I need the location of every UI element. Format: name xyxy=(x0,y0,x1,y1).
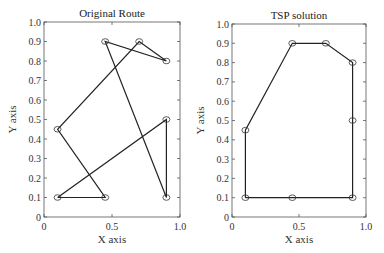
x-axis-label: X axis xyxy=(285,233,313,245)
y-tick-label: 0.7 xyxy=(217,76,230,87)
y-axis-label: Y axis xyxy=(6,105,18,133)
y-tick-label: 0.1 xyxy=(29,192,42,203)
tsp-solution-plot: TSP solution00.10.20.30.40.50.60.70.80.9… xyxy=(194,9,372,245)
y-tick-label: 0.7 xyxy=(29,75,42,86)
axes-frame xyxy=(44,22,180,217)
original-route-plot: Original Route00.10.20.30.40.50.60.70.80… xyxy=(6,7,186,245)
y-tick-label: 0.9 xyxy=(29,36,42,47)
y-tick-label: 0 xyxy=(224,212,229,223)
y-tick-label: 0.4 xyxy=(29,134,42,145)
y-tick-label: 0.5 xyxy=(217,115,230,126)
plot-title: Original Route xyxy=(79,7,145,19)
y-tick-label: 0.4 xyxy=(217,134,230,145)
y-tick-label: 0.2 xyxy=(29,173,42,184)
y-tick-label: 0.1 xyxy=(217,192,230,203)
x-tick-label: 0.5 xyxy=(293,221,306,232)
x-axis-label: X axis xyxy=(98,233,126,245)
x-tick-label: 1.0 xyxy=(174,221,187,232)
route-line xyxy=(245,43,352,197)
x-tick-label: 0 xyxy=(42,221,47,232)
y-tick-label: 1.0 xyxy=(29,17,42,28)
x-tick-label: 0 xyxy=(230,221,235,232)
axes-frame xyxy=(232,24,366,217)
y-tick-label: 0.6 xyxy=(217,96,230,107)
y-tick-label: 0.9 xyxy=(217,38,230,49)
y-axis-label: Y axis xyxy=(194,106,206,134)
x-tick-label: 1.0 xyxy=(360,221,373,232)
y-tick-label: 0.6 xyxy=(29,95,42,106)
y-tick-label: 0 xyxy=(36,212,41,223)
y-tick-label: 0.8 xyxy=(217,57,230,68)
plot-title: TSP solution xyxy=(271,9,328,21)
y-tick-label: 0.3 xyxy=(29,153,42,164)
chart-canvas: Original Route00.10.20.30.40.50.60.70.80… xyxy=(0,0,384,253)
y-tick-label: 1.0 xyxy=(217,19,230,30)
route-line xyxy=(58,42,167,198)
y-tick-label: 0.2 xyxy=(217,173,230,184)
y-tick-label: 0.5 xyxy=(29,114,42,125)
y-tick-label: 0.8 xyxy=(29,56,42,67)
x-tick-label: 0.5 xyxy=(106,221,119,232)
y-tick-label: 0.3 xyxy=(217,154,230,165)
